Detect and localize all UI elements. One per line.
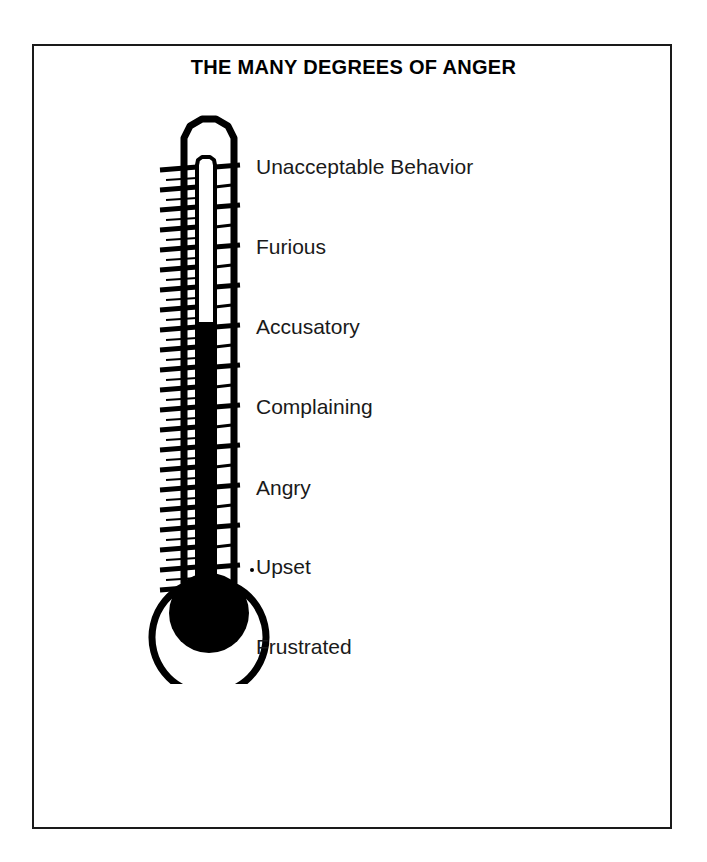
- degree-label-frustrated: Frustrated: [256, 636, 352, 657]
- degree-label-angry: Angry: [256, 477, 311, 498]
- thermometer-icon: [140, 108, 270, 684]
- page-title: THE MANY DEGREES OF ANGER: [0, 56, 707, 79]
- thermometer-graphic: [140, 108, 270, 684]
- thermometer-bulb: [169, 573, 249, 653]
- ink-speck: [250, 568, 254, 572]
- degree-label-list: Unacceptable Behavior Furious Accusatory…: [256, 108, 656, 684]
- degree-label-furious: Furious: [256, 236, 326, 257]
- degree-label-accusatory: Accusatory: [256, 316, 360, 337]
- degree-label-unacceptable-behavior: Unacceptable Behavior: [256, 156, 473, 177]
- degree-label-complaining: Complaining: [256, 396, 373, 417]
- anger-thermometer-poster: THE MANY DEGREES OF ANGER: [0, 0, 707, 862]
- degree-label-upset: Upset: [256, 556, 311, 577]
